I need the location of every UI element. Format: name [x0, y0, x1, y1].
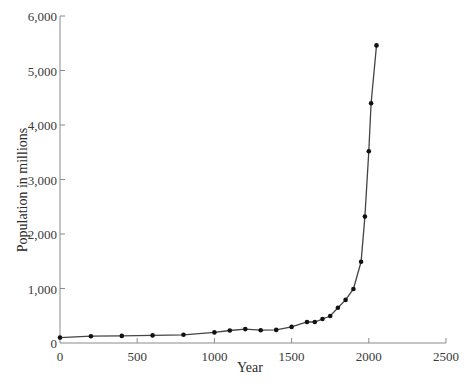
x-axis-title: Year	[237, 360, 263, 375]
data-point	[328, 314, 333, 319]
y-axis-ticks: 01,0002,0003,0004,0005,0006,000	[28, 9, 65, 351]
data-point	[351, 287, 356, 292]
population-line	[60, 45, 377, 337]
data-point	[289, 325, 294, 330]
data-series	[58, 43, 379, 340]
data-point	[228, 328, 233, 333]
y-tick-label: 4,000	[28, 118, 57, 133]
data-point	[336, 306, 341, 311]
y-tick-label: 2,000	[28, 227, 57, 242]
data-point	[374, 43, 379, 48]
y-tick-label: 3,000	[28, 173, 57, 188]
axes	[60, 16, 446, 343]
population-line-chart: 01,0002,0003,0004,0005,0006,000 05001000…	[0, 0, 469, 386]
data-point	[343, 298, 348, 303]
y-tick-label: 6,000	[28, 9, 57, 24]
data-point	[243, 327, 248, 332]
y-tick-label: 1,000	[28, 282, 57, 297]
x-tick-label: 1000	[201, 349, 227, 364]
x-tick-label: 2000	[356, 349, 382, 364]
data-point	[320, 317, 325, 322]
x-tick-label: 1500	[279, 349, 305, 364]
y-axis-title: Population in millions	[15, 128, 30, 252]
data-point	[313, 320, 318, 325]
data-point	[369, 101, 374, 106]
data-point	[367, 149, 372, 154]
x-tick-label: 500	[127, 349, 147, 364]
x-tick-label: 0	[57, 349, 64, 364]
data-point	[120, 334, 125, 339]
data-point	[150, 333, 155, 338]
data-point	[305, 320, 310, 325]
data-point	[181, 333, 186, 338]
x-tick-label: 2500	[433, 349, 459, 364]
data-point	[359, 260, 364, 265]
data-point	[89, 334, 94, 339]
data-point	[258, 328, 263, 333]
data-point	[212, 330, 217, 335]
y-tick-label: 5,000	[28, 64, 57, 79]
data-point	[363, 214, 368, 219]
data-point	[274, 328, 279, 333]
data-point	[58, 335, 63, 340]
